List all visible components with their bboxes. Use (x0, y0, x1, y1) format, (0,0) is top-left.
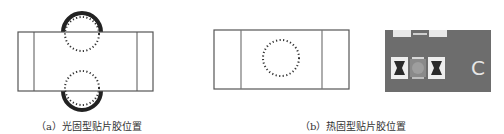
pcb-photo: C (385, 30, 491, 92)
caption-b: （b）热固型贴片胶位置 (300, 118, 406, 133)
silkscreen-label: C (471, 56, 485, 80)
panel-b-diagram (214, 30, 349, 89)
component-body-a (18, 32, 153, 91)
glue-dot-circle-bottom (65, 71, 99, 105)
glue-arc-bottom (63, 91, 101, 110)
glue-arc-top-outline (63, 13, 101, 32)
panel-a-diagram (18, 13, 153, 110)
glue-dot-circle-top (65, 17, 99, 51)
caption-a: （a）光固型贴片胶位置 (36, 118, 142, 133)
component-body-b (214, 30, 349, 89)
figure: C （a）光固型贴片胶位置 （b）热固型贴片胶位置 (0, 0, 504, 134)
glue-dot-circle-center (263, 40, 299, 76)
